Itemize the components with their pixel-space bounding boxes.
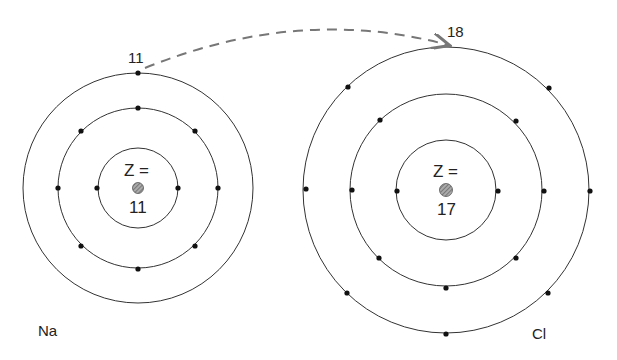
- cl-nucleus-icon: [440, 184, 453, 197]
- na-z-value: 11: [129, 199, 147, 216]
- electron-transfer-arrow: [145, 29, 448, 68]
- cl-symbol: Cl: [532, 326, 546, 341]
- cl-z-value: 17: [437, 201, 456, 218]
- na-electron-count: 11: [128, 50, 144, 65]
- sodium-atom: [23, 70, 253, 303]
- cl-electron-count: 18: [447, 24, 464, 39]
- ionic-bond-diagram: [0, 0, 617, 360]
- na-nucleus-icon: [133, 183, 144, 194]
- chlorine-atom: [303, 47, 593, 337]
- na-symbol: Na: [38, 323, 57, 338]
- cl-z-label: Z =: [433, 163, 458, 180]
- na-z-label: Z =: [124, 162, 149, 179]
